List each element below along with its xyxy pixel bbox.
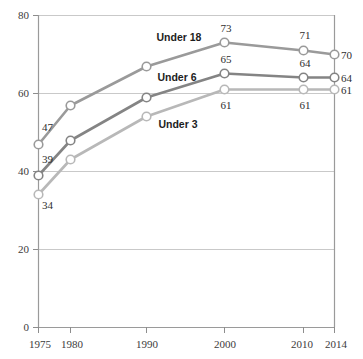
data-label-under6-2000: 65: [221, 53, 233, 65]
series-inline-labels: Under 18 Under 6 Under 3: [157, 31, 202, 130]
y-tick-label-80: 80: [18, 9, 30, 21]
x-tick-label-2014: 2014: [325, 338, 348, 350]
data-point-under6-1975: [34, 171, 43, 180]
y-tick-label-0: 0: [24, 321, 30, 333]
data-point-under6-1980: [66, 136, 75, 145]
data-point-under18-1980: [66, 101, 75, 110]
x-tick-labels: 1975 1980 1990 2000 2010 2014: [29, 338, 348, 350]
data-label-under18-2014: 70: [341, 49, 353, 61]
series-under-3-line: [39, 90, 335, 195]
data-point-under3-1990: [142, 112, 151, 121]
x-tick-label-1975: 1975: [29, 338, 52, 350]
data-point-under18-2010: [299, 46, 308, 55]
data-point-under6-2000: [220, 69, 229, 78]
data-label-under18-1975: 47: [42, 121, 54, 133]
data-point-under18-1975: [34, 140, 43, 149]
x-tick-label-2010: 2010: [291, 338, 314, 350]
data-label-under3-2010: 61: [300, 99, 311, 111]
data-point-under3-2010: [299, 85, 308, 94]
data-label-under18-2010: 71: [300, 29, 311, 41]
data-point-under3-2014: [330, 85, 339, 94]
y-tick-label-20: 20: [18, 243, 30, 255]
series-under-3: [34, 85, 339, 199]
data-label-under6-2010: 64: [300, 57, 312, 69]
y-tick-labels: 80 60 40 20 0: [18, 9, 30, 333]
series-label-under-6: Under 6: [157, 71, 196, 83]
data-label-under18-2000: 73: [221, 22, 233, 34]
line-chart: 80 60 40 20 0 1975 1980 1990 2000 2010 2…: [0, 0, 363, 359]
data-point-under3-1975: [34, 190, 43, 199]
data-label-under3-2000: 61: [221, 99, 232, 111]
data-label-under3-2014: 61: [341, 84, 352, 96]
data-point-under3-1980: [66, 155, 75, 164]
y-tick-label-60: 60: [18, 87, 30, 99]
x-tick-label-1980: 1980: [61, 338, 84, 350]
data-point-under18-2000: [220, 38, 229, 47]
data-label-under3-1975: 34: [42, 199, 54, 211]
data-point-under6-2010: [299, 73, 308, 82]
x-tick-label-1990: 1990: [136, 338, 159, 350]
data-point-under18-2014: [330, 50, 339, 59]
x-tick-label-2000: 2000: [214, 338, 237, 350]
data-point-under3-2000: [220, 85, 229, 94]
data-point-under6-2014: [330, 73, 339, 82]
y-tick-label-40: 40: [18, 165, 30, 177]
series-label-under-18: Under 18: [157, 31, 202, 43]
data-point-under18-1990: [142, 62, 151, 71]
data-label-under6-1975: 39: [42, 153, 54, 165]
chart-svg: 80 60 40 20 0 1975 1980 1990 2000 2010 2…: [0, 0, 363, 359]
series-label-under-3: Under 3: [158, 118, 197, 130]
data-point-under6-1990: [142, 93, 151, 102]
data-label-under6-2014: 64: [341, 72, 353, 84]
